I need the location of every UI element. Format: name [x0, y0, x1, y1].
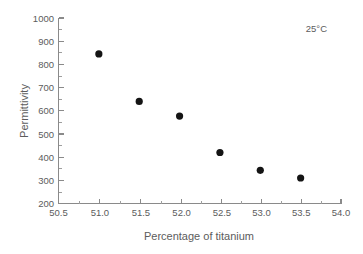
data-point [176, 112, 183, 119]
temperature-annotation: 25°C [306, 23, 327, 34]
y-tick-label: 700 [38, 82, 54, 93]
x-tick-label: 51.5 [132, 207, 151, 218]
x-tick-label: 54.0 [332, 207, 351, 218]
scatter-chart: 1000 900 800 700 600 500 400 300 200 50.… [0, 0, 363, 254]
y-tick-label: 600 [38, 105, 54, 116]
y-tick-label: 300 [38, 175, 54, 186]
data-point [216, 149, 223, 156]
y-tick-label: 500 [38, 129, 54, 140]
x-axis-tick-labels: 50.5 51.0 51.5 52.0 52.5 53.0 53.5 54.0 [49, 207, 350, 218]
data-series-permittivity [95, 50, 304, 181]
x-tick-label: 53.0 [252, 207, 271, 218]
data-point [257, 167, 264, 174]
x-tick-label: 51.0 [91, 207, 110, 218]
y-tick-label: 1000 [33, 13, 54, 24]
y-axis-tick-labels: 1000 900 800 700 600 500 400 300 200 [33, 13, 54, 210]
y-axis-title: Permittivity [18, 84, 30, 138]
y-tick-label: 900 [38, 36, 54, 47]
y-tick-label: 400 [38, 152, 54, 163]
data-point [297, 174, 304, 181]
chart-canvas: 1000 900 800 700 600 500 400 300 200 50.… [0, 0, 363, 254]
x-axis-major-ticks [59, 199, 342, 204]
data-point [95, 50, 102, 57]
x-tick-label: 52.0 [172, 207, 191, 218]
x-tick-label: 53.5 [292, 207, 311, 218]
x-tick-label: 50.5 [49, 207, 68, 218]
y-tick-label: 800 [38, 59, 54, 70]
x-axis-title: Percentage of titanium [144, 230, 254, 242]
y-axis-major-ticks [59, 18, 64, 204]
x-tick-label: 52.5 [213, 207, 232, 218]
data-point [136, 98, 143, 105]
